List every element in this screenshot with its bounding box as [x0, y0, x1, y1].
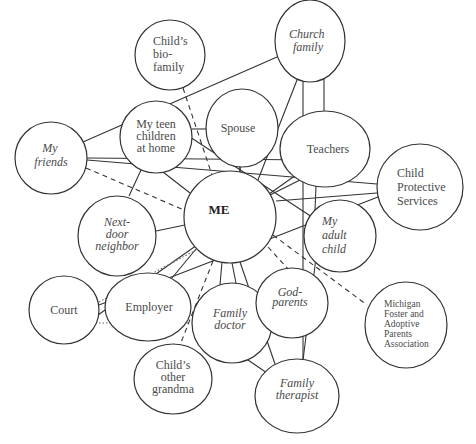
node-label: neighbor: [95, 239, 139, 253]
node-childs-other-grandma: Child’s other grandma: [134, 344, 212, 414]
edge-me-doctor-2: [232, 263, 236, 283]
node-next-door-neighbor: Next- door neighbor: [78, 196, 156, 276]
node-label: at home: [137, 141, 175, 155]
node-label: Spouse: [221, 121, 256, 135]
node-childs-bio-family: Child’s bio- family: [135, 20, 205, 90]
node-label: Services: [397, 194, 438, 208]
node-label: Foster and: [384, 309, 424, 319]
ecomap-diagram: Child’s bio- family Church family My tee…: [0, 0, 476, 444]
node-label: Child: [397, 166, 424, 180]
node-label: Teachers: [307, 142, 350, 156]
edge-neighbor-me: [156, 225, 185, 231]
node-label: therapist: [276, 388, 319, 402]
edge-teen-neighbor: [129, 170, 141, 196]
edge-doctor-therapist: [248, 360, 267, 373]
node-label: Adoptive: [384, 319, 419, 329]
edge-me-godparents: [268, 247, 289, 270]
node-label: My: [321, 214, 338, 228]
node-family-therapist: Family therapist: [255, 359, 339, 433]
node-label: Employer: [125, 300, 172, 314]
node-my-friends: My friends: [15, 122, 87, 194]
node-label: grandma: [152, 382, 195, 396]
edge-teen-me: [163, 172, 190, 193]
node-label: Association: [384, 339, 429, 349]
node-label: Court: [50, 303, 78, 317]
node-michigan-fapa: Michigan Foster and Adoptive Parents Ass…: [365, 282, 447, 368]
node-court: Court: [29, 276, 99, 344]
node-label: adult: [322, 228, 347, 242]
node-my-teen-children: My teen children at home: [120, 101, 192, 173]
nodes: Child’s bio- family Church family My tee…: [15, 0, 463, 433]
edge-me-doctor: [220, 262, 222, 285]
node-label: Michigan: [384, 299, 421, 309]
node-label: ME: [209, 202, 230, 217]
node-child-protective-services: Child Protective Services: [377, 144, 463, 230]
node-label: bio-: [153, 47, 172, 61]
node-label: parents: [271, 295, 308, 309]
node-label: family: [153, 60, 184, 74]
edge-cps-me: [276, 193, 377, 201]
node-label: Protective: [397, 180, 446, 194]
node-me: ME: [184, 171, 276, 263]
node-label: child: [322, 242, 347, 256]
node-label: doctor: [214, 318, 246, 332]
node-label: My: [41, 141, 58, 155]
node-spouse: Spouse: [206, 89, 278, 167]
node-god-parents: God- parents: [256, 268, 328, 338]
node-label: Parents: [384, 329, 412, 339]
node-employer: Employer: [105, 273, 191, 341]
node-my-adult-child: My adult child: [304, 200, 376, 272]
node-label: Child’s: [153, 34, 188, 48]
node-label: family: [293, 40, 324, 54]
node-label: friends: [34, 155, 68, 169]
edge-me-employer: [172, 249, 196, 278]
node-teachers: Teachers: [280, 111, 370, 187]
edge-teachers-me: [268, 180, 300, 196]
node-label: Church: [289, 27, 325, 41]
node-church-family: Church family: [275, 0, 345, 82]
